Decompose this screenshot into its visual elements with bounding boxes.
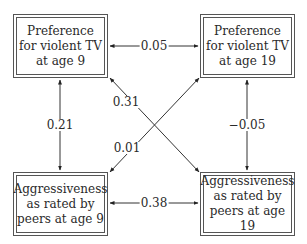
edge-label-agg9-agg19: 0.38 [140, 197, 169, 209]
edge-label-tv9-agg19: 0.31 [112, 96, 141, 108]
node-violent-tv-age-9: Preference for violent TV at age 9 [13, 14, 108, 78]
node-aggressiveness-age-9: Aggressiveness as rated by peers at age … [13, 172, 108, 236]
node-label: Aggressiveness as rated by peers at age … [16, 175, 105, 233]
node-label: Aggressiveness as rated by peers at age … [203, 175, 292, 233]
node-aggressiveness-age-19: Aggressiveness as rated by peers at age … [200, 172, 295, 236]
edge-label-tv9-tv19: 0.05 [140, 40, 169, 52]
node-violent-tv-age-19: Preference for violent TV at age 19 [200, 14, 295, 78]
edge-label-tv19-agg19: −0.05 [228, 119, 267, 131]
edge-label-agg9-tv19: 0.01 [113, 142, 142, 154]
node-label: Preference for violent TV at age 9 [16, 17, 105, 75]
node-label: Preference for violent TV at age 19 [203, 17, 292, 75]
edge-label-tv9-agg9: 0.21 [46, 119, 75, 131]
